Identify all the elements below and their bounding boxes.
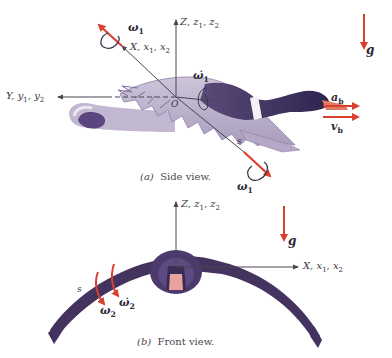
front-view-duck xyxy=(48,250,322,348)
side-y-axis-label: Y, y1, y2 xyxy=(6,91,44,104)
front-view-caption: (b) Front view. xyxy=(137,336,214,347)
front-s-label: s xyxy=(77,285,82,294)
omega2-dot-label: ω̇2 xyxy=(119,297,135,311)
omega2-label: ω2 xyxy=(100,305,116,319)
duck-kinematics-diagram: ω1 X, x1, x2 Z, z1, z2 Y, y1, y2 O ω̇1 s… xyxy=(0,0,392,358)
side-s-axis-label: s xyxy=(237,137,242,146)
side-view-caption: (a) Side view. xyxy=(140,171,211,182)
front-z-axis-label: Z, z1, z2 xyxy=(181,199,220,212)
origin-label: O xyxy=(171,100,178,109)
side-x-axis-label: X, x1, x2 xyxy=(130,42,170,55)
omega1-dot-center-label: ω̇1 xyxy=(193,70,209,84)
velocity-label: vb xyxy=(331,121,343,135)
gravity-label-side: g xyxy=(366,44,374,56)
side-view-duck xyxy=(69,77,348,152)
acceleration-label: ab xyxy=(331,92,344,106)
side-z-axis-label: Z, z1, z2 xyxy=(180,17,219,30)
omega1-top-label: ω1 xyxy=(128,22,144,36)
gravity-label-front: g xyxy=(288,235,296,247)
omega1-bottom-label: ω1 xyxy=(237,181,253,195)
front-x-axis-label: X, x1, x2 xyxy=(303,261,343,274)
